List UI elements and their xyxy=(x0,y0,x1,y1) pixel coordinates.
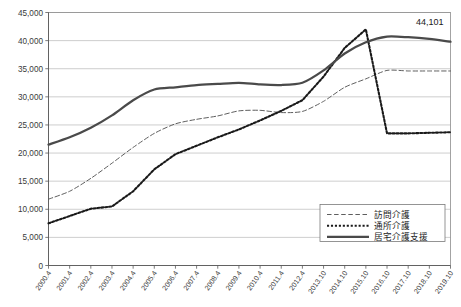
x-axis-tick-label: 2010.4 xyxy=(245,269,265,292)
legend-item-label: 居宅介護支援 xyxy=(374,231,428,242)
y-axis-tick-label: 25,000 xyxy=(18,121,43,130)
y-axis-tick-label: 15,000 xyxy=(18,177,43,186)
x-axis-tick-label: 2018.10 xyxy=(412,269,434,295)
y-axis-tick-label: 45,000 xyxy=(18,9,43,18)
y-axis-group: 05,00010,00015,00020,00025,00030,00035,0… xyxy=(18,9,49,271)
x-axis-tick-label: 2007.4 xyxy=(181,269,201,292)
chart-canvas: 05,00010,00015,00020,00025,00030,00035,0… xyxy=(0,0,461,307)
annotation-group: 44,101 xyxy=(416,17,444,27)
y-axis-tick-label: 40,000 xyxy=(18,37,43,46)
x-axis-tick-label: 2000.4 xyxy=(33,269,53,292)
x-axis-tick-label: 2017.10 xyxy=(391,269,413,295)
y-axis-tick-label: 20,000 xyxy=(18,149,43,158)
x-axis-tick-label: 2019.10 xyxy=(433,269,455,295)
x-axis-tick-label: 2006.4 xyxy=(160,269,180,292)
x-axis-tick-label: 2013.10 xyxy=(306,269,328,295)
x-axis-tick-label: 2012.4 xyxy=(287,269,307,292)
y-axis-tick-label: 0 xyxy=(38,262,43,271)
legend: 訪問介護通所介護居宅介護支援 xyxy=(320,205,445,243)
x-axis-tick-label: 2005.4 xyxy=(139,269,159,292)
annotation-label: 44,101 xyxy=(416,17,444,27)
y-axis-tick-label: 10,000 xyxy=(18,205,43,214)
x-axis-tick-label: 2016.10 xyxy=(369,269,391,295)
x-axis-tick-label: 2001.4 xyxy=(54,269,74,292)
x-axis-tick-label: 2015.10 xyxy=(348,269,370,295)
y-axis-tick-label: 5,000 xyxy=(23,233,44,242)
x-axis-group: 2000.42001.42002.42003.42004.42005.42006… xyxy=(33,266,455,296)
x-axis-tick-label: 2014.10 xyxy=(327,269,349,295)
legend-item-label: 訪問介護 xyxy=(374,209,410,220)
x-axis-tick-label: 2003.4 xyxy=(97,269,117,292)
y-axis-tick-label: 35,000 xyxy=(18,65,43,74)
y-axis-tick-label: 30,000 xyxy=(18,93,43,102)
x-axis-tick-label: 2009.4 xyxy=(224,269,244,292)
x-axis-tick-label: 2008.4 xyxy=(202,269,222,292)
x-axis-tick-label: 2011.4 xyxy=(266,269,286,292)
legend-item-label: 通所介護 xyxy=(374,220,410,231)
x-axis-tick-label: 2004.4 xyxy=(118,269,138,292)
line-chart: 05,00010,00015,00020,00025,00030,00035,0… xyxy=(0,0,461,307)
x-axis-tick-label: 2002.4 xyxy=(75,269,95,292)
